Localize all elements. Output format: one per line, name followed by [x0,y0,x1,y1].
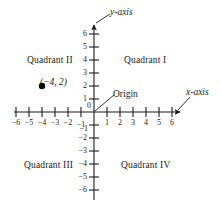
origin-leader-line [95,95,114,111]
x-tick-label: −2 [61,119,75,127]
x-tick-label: −3 [48,119,62,127]
x-tick-label: −6 [9,119,23,127]
y-tick-label: −6 [73,186,87,194]
x-axis-label: x-axis [186,88,209,98]
y-axis-label: y-axis [110,8,133,18]
coordinate-plane-figure: y-axis x-axis Origin Quadrant I Quadrant… [0,0,221,210]
y-tick-label: −1 [74,125,88,133]
x-tick-label: 2 [113,119,127,127]
x-tick-label: 6 [165,119,179,127]
origin-label: Origin [113,90,138,100]
quadrant-i-label: Quadrant I [124,56,166,66]
y-tick-label: 3 [73,69,87,77]
x-tick-label: −4 [35,119,49,127]
y-tick-label: 4 [73,56,87,64]
x-tick-label: 4 [139,119,153,127]
x-tick-label: 3 [126,119,140,127]
quadrant-iv-label: Quadrant IV [121,161,170,171]
y-tick-label: −5 [73,173,87,181]
x-axis-leader-line [178,97,190,110]
quadrant-iii-label: Quadrant III [24,161,73,171]
y-tick-label: −2 [73,134,87,142]
y-tick-label: 6 [73,30,87,38]
x-tick-label: −5 [22,119,36,127]
x-tick-label: 1 [100,119,114,127]
y-tick-label: 5 [73,43,87,51]
y-axis-leader-line [96,14,110,23]
x-tick-label: 5 [152,119,166,127]
quadrant-ii-label: Quadrant II [27,56,73,66]
origin-zero-label: 0 [82,102,96,110]
plotted-point-label: (−4, 2) [40,78,67,88]
y-tick-label: −4 [73,160,87,168]
coordinate-plane-graphic [0,0,221,210]
y-tick-label: 2 [73,82,87,90]
y-tick-label: −3 [73,147,87,155]
